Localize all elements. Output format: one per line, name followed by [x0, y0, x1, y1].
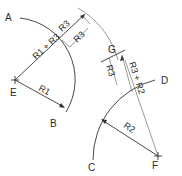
label-d: D — [161, 75, 168, 86]
dim-r3-a: R3 — [57, 18, 72, 33]
label-f: F — [152, 160, 158, 171]
arrowhead-g — [120, 55, 124, 61]
dim-r3-plus-r2: R3 + R2 — [127, 61, 147, 96]
dim-r1: R1 — [37, 83, 52, 97]
label-g: G — [108, 44, 116, 55]
dim-r3-c: R3 — [104, 64, 117, 78]
r3-dimension-line-top2 — [84, 17, 90, 24]
label-c: C — [88, 162, 95, 173]
diagram-canvas: A B C D E F G R1 + R3 R3 R3 R1 R3 R3 + R… — [0, 0, 182, 176]
label-a: A — [5, 12, 12, 23]
arrowhead-r1 — [59, 103, 65, 108]
label-b: B — [50, 118, 57, 129]
line-e-b-r1 — [15, 80, 64, 107]
center-f-mark — [154, 152, 162, 160]
label-e: E — [10, 87, 17, 98]
dim-r1-plus-r3: R1 + R3 — [31, 31, 62, 61]
dim-r2: R2 — [122, 120, 137, 135]
